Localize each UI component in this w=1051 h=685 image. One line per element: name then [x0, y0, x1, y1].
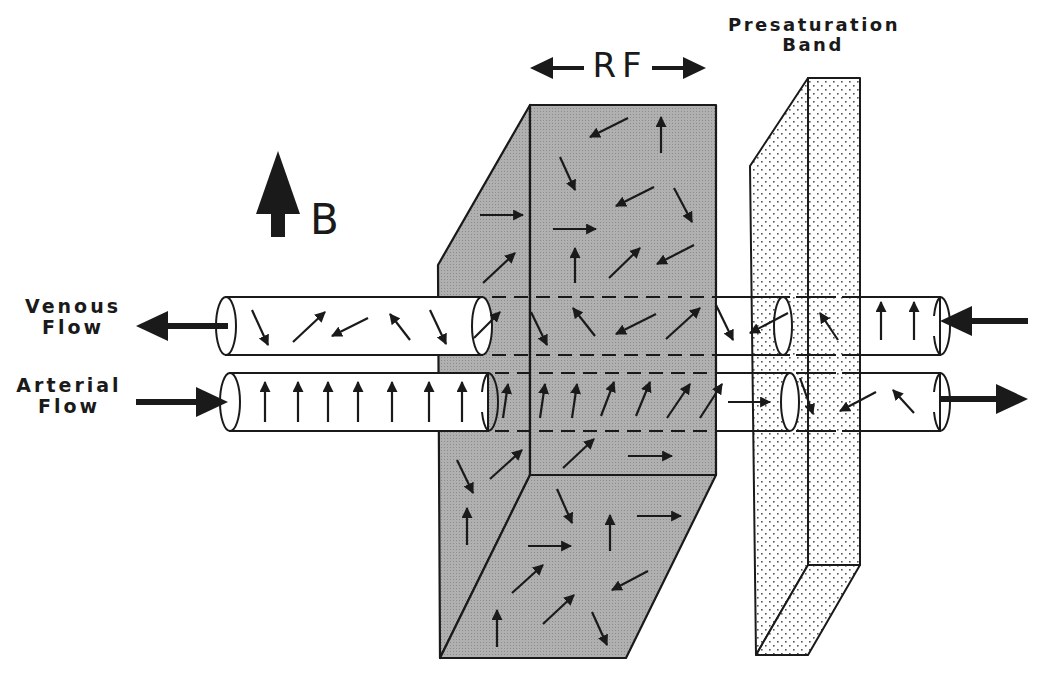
arterial-flow-label: Arterial Flow [10, 375, 128, 418]
rf-label: RF [570, 46, 670, 84]
b-field-arrow-icon [256, 151, 300, 237]
arterial-label-line1: Arterial [10, 375, 128, 396]
rf-slab-front-face [530, 105, 716, 475]
arterial-flow-arrow-icon [136, 387, 228, 417]
venous-inflow-arrow-icon [940, 306, 1028, 336]
venous-flow-arrow-icon [136, 311, 228, 341]
arterial-outflow-arrow-icon [940, 384, 1028, 414]
presaturation-diagram [0, 0, 1051, 685]
presat-label-line1: Presaturation [728, 15, 898, 35]
presaturation-band-label: Presaturation Band [728, 15, 898, 55]
venous-flow-label: Venous Flow [18, 296, 128, 339]
venous-label-line2: Flow [18, 317, 128, 338]
venous-label-line1: Venous [18, 296, 128, 317]
b-field-label: B [310, 196, 350, 243]
arterial-label-line2: Flow [10, 396, 128, 417]
presat-label-line2: Band [728, 35, 898, 55]
presaturation-band [750, 78, 860, 655]
